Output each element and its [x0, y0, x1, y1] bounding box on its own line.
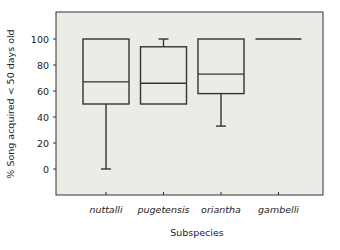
box-plot-chart: 020406080100 nuttallipugetensisorianthag…	[0, 0, 340, 250]
y-tick-label: 80	[37, 60, 49, 71]
y-axis: 020406080100	[31, 34, 56, 175]
category-label: gambelli	[258, 204, 299, 215]
y-axis-title: % Song acquired < 50 days old	[5, 29, 16, 178]
y-tick-label: 40	[37, 112, 49, 123]
y-tick-label: 100	[31, 34, 49, 45]
y-tick-label: 0	[43, 164, 49, 175]
x-axis-title: Subspecies	[170, 227, 224, 238]
y-tick-label: 60	[37, 86, 49, 97]
category-label: oriantha	[201, 204, 241, 215]
category-label: pugetensis	[136, 204, 189, 215]
category-label: nuttalli	[89, 204, 123, 215]
y-tick-label: 20	[37, 138, 49, 149]
